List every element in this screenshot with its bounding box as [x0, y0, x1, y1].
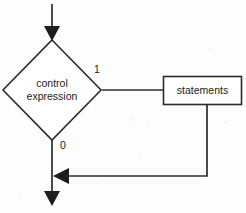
- loop-back-line: [61, 105, 207, 176]
- decision-label-line-2: expression: [27, 90, 78, 102]
- decision-node[interactable]: control expression: [3, 40, 101, 140]
- loop-back-arrow-head-icon: [53, 168, 69, 184]
- process-label: statements: [177, 84, 228, 96]
- exit-arrow-head-icon: [44, 191, 60, 206]
- entry-arrow-head-icon: [44, 26, 60, 41]
- true-branch-label: 1: [94, 63, 100, 75]
- false-branch-label: 0: [60, 139, 66, 151]
- process-node[interactable]: statements: [164, 77, 242, 105]
- entry-arrow: [44, 4, 60, 41]
- decision-label-line-1: control: [36, 77, 68, 89]
- flowchart-canvas: control expression 1 statements 0: [0, 0, 246, 213]
- flowchart-figure: control expression 1 statements 0: [0, 0, 246, 213]
- loop-back-edge: [53, 105, 207, 184]
